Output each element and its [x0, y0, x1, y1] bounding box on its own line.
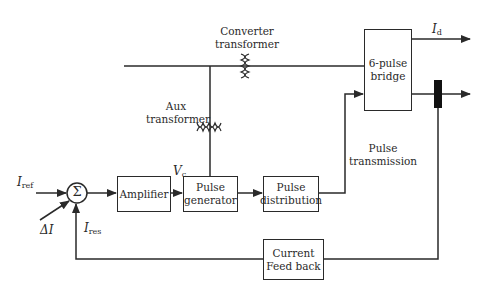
aux-transformer-label: Aux transformer — [146, 100, 206, 126]
current-feedback-block: Current Feed back — [263, 239, 324, 280]
amplifier-block: Amplifier — [117, 176, 171, 212]
aux-transformer-label-2: transformer — [146, 113, 206, 126]
i-res-label: Ires — [84, 221, 101, 236]
aux-transformer-label-1: Aux — [146, 100, 206, 113]
pulse-transmission-label: Pulse transmission — [348, 142, 418, 168]
converter-transformer-label-2: transformer — [212, 38, 282, 51]
feedback-sense-line — [324, 108, 438, 259]
i-ref-label: Iref — [17, 175, 33, 190]
converter-transformer-label: Converter transformer — [212, 25, 282, 51]
v-c-label: Vc — [173, 164, 186, 179]
feedback-return-path — [76, 204, 263, 259]
pulse-distribution-label-2: distribution — [260, 194, 322, 207]
current-sensor-icon — [434, 80, 442, 108]
feedback-label-1: Current — [272, 247, 314, 260]
pulse-generator-block: Pulse generator — [183, 176, 238, 212]
delta-i-label: ΔI — [40, 223, 53, 237]
delta-i-input-arrow — [40, 201, 69, 220]
bridge-label-1: 6-pulse — [369, 57, 408, 70]
amplifier-label: Amplifier — [119, 188, 168, 201]
six-pulse-bridge-block: 6-pulse bridge — [364, 29, 412, 111]
pulse-distribution-label-1: Pulse — [277, 181, 306, 194]
pulse-distribution-block: Pulse distribution — [263, 176, 319, 212]
pulse-generator-label-2: generator — [184, 194, 237, 207]
pulse-transmission-label-2: transmission — [348, 155, 418, 168]
pulse-generator-label-1: Pulse — [196, 181, 225, 194]
summer-sigma: Σ — [70, 185, 84, 198]
pulse-transmission-label-1: Pulse — [348, 142, 418, 155]
feedback-label-2: Feed back — [266, 260, 320, 273]
bridge-label-2: bridge — [371, 70, 406, 83]
i-d-label: Id — [432, 22, 442, 37]
converter-transformer-label-1: Converter — [212, 25, 282, 38]
